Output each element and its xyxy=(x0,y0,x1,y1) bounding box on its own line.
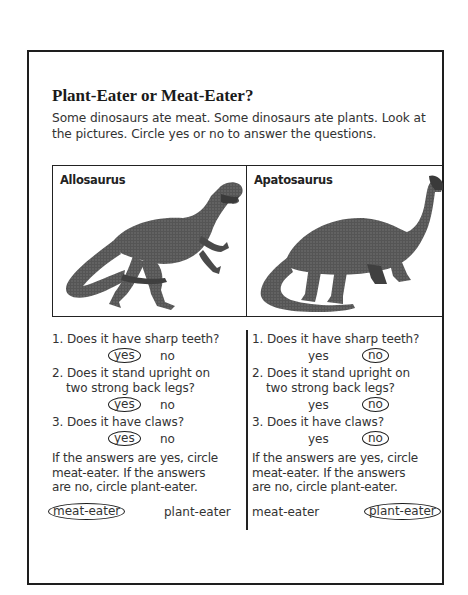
choice-meat-eater-circled[interactable]: meat-eater xyxy=(48,503,125,520)
answer-yes-circled[interactable]: yes xyxy=(108,348,141,363)
allosaurus-questions: 1. Does it have sharp teeth? yes no 2. D… xyxy=(52,332,244,524)
answer-yes[interactable]: yes xyxy=(308,432,329,446)
question-3-answers: yes no xyxy=(52,430,244,449)
question-2-answers: yes no xyxy=(252,396,444,415)
diet-choices: meat-eater plant-eater xyxy=(52,502,244,524)
allosaurus-illustration-icon xyxy=(53,166,248,318)
answer-no[interactable]: no xyxy=(160,432,175,446)
question-2-line1: 2. Does it stand upright on xyxy=(52,366,244,381)
choice-plant-eater[interactable]: plant-eater xyxy=(164,505,231,519)
conclusion-line-3: are no, circle plant-eater. xyxy=(252,480,444,495)
apatosaurus-picture-panel: Apatosaurus xyxy=(246,165,442,317)
allosaurus-picture-panel: Allosaurus xyxy=(52,165,247,317)
question-3: 3. Does it have claws? xyxy=(252,415,444,430)
apatosaurus-questions: 1. Does it have sharp teeth? yes no 2. D… xyxy=(252,332,444,524)
answer-no[interactable]: no xyxy=(160,398,175,412)
conclusion-line-2: meat-eater. If the answers xyxy=(52,466,244,481)
conclusion-instructions: If the answers are yes, circle meat-eate… xyxy=(252,451,444,495)
worksheet-instructions: Some dinosaurs ate meat. Some dinosaurs … xyxy=(52,110,442,142)
question-1: 1. Does it have sharp teeth? xyxy=(252,332,444,347)
conclusion-line-1: If the answers are yes, circle xyxy=(52,451,244,466)
question-3: 3. Does it have claws? xyxy=(52,415,244,430)
answer-yes[interactable]: yes xyxy=(308,349,329,363)
worksheet-page: Plant-Eater or Meat-Eater? Some dinosaur… xyxy=(0,0,468,595)
question-2-line2: two strong back legs? xyxy=(52,381,244,396)
choice-plant-eater-circled[interactable]: plant-eater xyxy=(364,503,441,520)
question-2-answers: yes no xyxy=(52,396,244,415)
diet-choices: meat-eater plant-eater xyxy=(252,502,444,524)
answer-yes-circled[interactable]: yes xyxy=(108,431,141,446)
column-divider xyxy=(246,330,248,530)
worksheet-title: Plant-Eater or Meat-Eater? xyxy=(52,86,253,106)
question-1: 1. Does it have sharp teeth? xyxy=(52,332,244,347)
apatosaurus-illustration-icon xyxy=(247,166,443,318)
answer-yes[interactable]: yes xyxy=(308,398,329,412)
answer-no[interactable]: no xyxy=(160,349,175,363)
answer-no-circled[interactable]: no xyxy=(362,348,389,363)
answer-no-circled[interactable]: no xyxy=(362,431,389,446)
question-1-answers: yes no xyxy=(52,347,244,366)
conclusion-line-3: are no, circle plant-eater. xyxy=(52,480,244,495)
answer-yes-circled[interactable]: yes xyxy=(108,397,141,412)
conclusion-line-1: If the answers are yes, circle xyxy=(252,451,444,466)
question-3-answers: yes no xyxy=(252,430,444,449)
answer-no-circled[interactable]: no xyxy=(362,397,389,412)
question-1-answers: yes no xyxy=(252,347,444,366)
question-2-line2: two strong back legs? xyxy=(252,381,444,396)
choice-meat-eater[interactable]: meat-eater xyxy=(252,505,319,519)
conclusion-instructions: If the answers are yes, circle meat-eate… xyxy=(52,451,244,495)
question-2-line1: 2. Does it stand upright on xyxy=(252,366,444,381)
conclusion-line-2: meat-eater. If the answers xyxy=(252,466,444,481)
